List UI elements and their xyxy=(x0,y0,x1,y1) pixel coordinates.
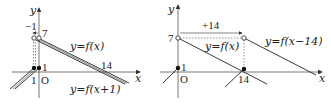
right-origin-label: O xyxy=(180,73,188,85)
right-curve-fx-label: y=f(x) xyxy=(204,40,239,53)
right-y-label: y xyxy=(167,3,175,16)
right-x-intercept-label: 14 xyxy=(238,73,250,85)
left-graph: y x O −1 7 1 1 14 y=f(x) y=f(x+1) xyxy=(10,4,142,98)
right-curve-shifted-label: y=f(x−14) xyxy=(264,35,323,48)
left-y-intercept-label: 7 xyxy=(42,27,48,39)
left-x-intercept-label: 14 xyxy=(101,59,113,71)
left-filled-point xyxy=(37,66,41,70)
left-point-label-neg1: 1 xyxy=(31,74,37,86)
left-point-label-1: 1 xyxy=(42,61,48,73)
right-graph: y x O +14 7 1 14 y=f(x) y=f(x−14) xyxy=(160,3,326,98)
right-shift-label: +14 xyxy=(202,19,220,31)
right-x-label: x xyxy=(319,72,326,85)
left-open-point xyxy=(37,36,41,40)
diagram-canvas: y x O −1 7 1 1 14 y=f(x) y=f(x+1) y xyxy=(0,0,331,105)
left-y-label: y xyxy=(29,4,37,17)
right-open-point xyxy=(176,36,180,40)
right-lower-fx xyxy=(163,68,178,83)
right-filled-point xyxy=(176,66,180,70)
left-curve-fx-label: y=f(x) xyxy=(69,40,104,53)
left-origin-label: O xyxy=(41,74,49,86)
left-filled-point-shifted xyxy=(32,66,36,70)
left-x-label: x xyxy=(135,72,142,85)
right-y-intercept-label: 7 xyxy=(168,32,174,44)
right-open-point-shifted xyxy=(242,36,246,40)
right-filled-point-shifted xyxy=(242,67,246,71)
left-open-point-shifted xyxy=(32,36,36,40)
left-shift-label: −1 xyxy=(25,20,37,32)
left-curve-shifted-label: y=f(x+1) xyxy=(69,83,121,96)
right-point-label-1: 1 xyxy=(181,61,187,73)
